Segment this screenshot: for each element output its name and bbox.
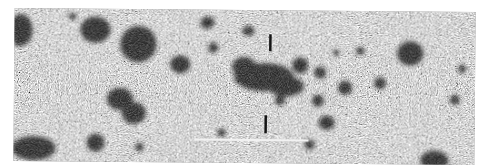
astronomical-image [13, 8, 475, 165]
scale-bar [195, 140, 309, 141]
speckle-overlay [13, 8, 475, 165]
star-field [13, 8, 475, 165]
